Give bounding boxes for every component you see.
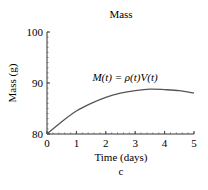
- y-ticks: 8090100: [27, 26, 51, 140]
- mass-curve: [47, 89, 194, 134]
- x-tick-label: 2: [103, 137, 109, 149]
- equation-annotation: M(t) = ρ(t)V(t): [91, 71, 158, 84]
- minor-ticks: [47, 32, 194, 134]
- chart: Mass 8090100 012345 M(t) = ρ(t)V(t) Time…: [0, 0, 208, 190]
- x-tick-label: 4: [162, 137, 168, 149]
- caption: c: [119, 165, 124, 177]
- x-tick-label: 5: [191, 137, 197, 149]
- x-tick-label: 1: [74, 137, 80, 149]
- x-tick-label: 0: [44, 137, 50, 149]
- y-tick-label: 90: [32, 77, 44, 89]
- y-tick-label: 100: [27, 26, 44, 38]
- chart-title: Mass: [109, 8, 132, 20]
- x-axis-label: Time (days): [94, 151, 147, 164]
- y-axis-label: Mass (g): [6, 63, 19, 102]
- y-tick-label: 80: [32, 128, 44, 140]
- x-tick-label: 3: [132, 137, 138, 149]
